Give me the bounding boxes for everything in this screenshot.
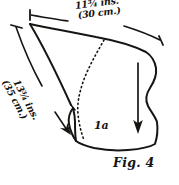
diagonal-dimension-line-lower	[55, 112, 67, 130]
figure-caption: Fig. 4	[113, 157, 155, 170]
top-dimension-line	[31, 15, 68, 21]
pattern-piece-diagonal-edge	[30, 24, 71, 105]
top-dimension-line-right	[124, 26, 160, 40]
pattern-piece-label: 1a	[94, 120, 108, 131]
pattern-figure: 11¾ ins. (30 cm.) 13¾ ins. (35 cm.) 1a F…	[0, 0, 179, 185]
